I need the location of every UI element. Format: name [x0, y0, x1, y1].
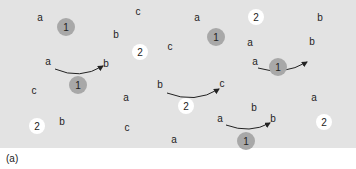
particle-2: 2: [316, 114, 332, 130]
letter-b: b: [157, 80, 163, 90]
letter-a: a: [252, 57, 258, 67]
letter-b: b: [103, 59, 109, 69]
letter-b: b: [251, 103, 257, 113]
particle-2: 2: [178, 98, 194, 114]
letter-b: b: [309, 37, 315, 47]
letter-a: a: [45, 57, 51, 67]
letter-a: a: [217, 114, 223, 124]
letter-a: a: [37, 13, 43, 23]
particle-1: 1: [69, 76, 87, 94]
particle-1: 1: [57, 18, 75, 36]
letter-a: a: [247, 38, 253, 48]
letter-b: b: [113, 30, 119, 40]
particle-1: 1: [237, 132, 255, 150]
diagram-panel: acabbcababacabcbabcaab 1221112221: [0, 0, 356, 148]
particle-1: 1: [269, 58, 287, 76]
letter-a: a: [171, 135, 177, 145]
letter-a: a: [123, 93, 129, 103]
letter-b: b: [59, 117, 65, 127]
arrow-a-to-b: [226, 123, 270, 129]
particle-2: 2: [248, 9, 264, 25]
letter-b: b: [270, 114, 276, 124]
particle-2: 2: [29, 118, 45, 134]
reaction-arrows: [0, 0, 356, 148]
arrow-b-to-c: [167, 89, 219, 98]
letter-c: c: [32, 86, 37, 96]
letter-a: a: [311, 93, 317, 103]
letter-c: c: [220, 79, 225, 89]
letter-c: c: [168, 42, 173, 52]
letter-a: a: [194, 13, 200, 23]
figure-caption: (a): [6, 153, 18, 164]
letter-c: c: [125, 123, 130, 133]
arrow-a-to-b: [55, 66, 103, 74]
letter-b: b: [317, 13, 323, 23]
particle-2: 2: [132, 44, 148, 60]
letter-c: c: [136, 7, 141, 17]
particle-1: 1: [207, 28, 225, 46]
